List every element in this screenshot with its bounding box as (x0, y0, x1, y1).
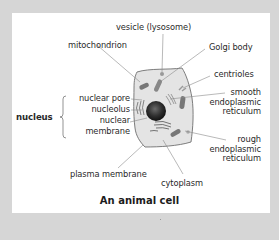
label-centrioles: centrioles (214, 70, 254, 80)
label-nuclear-pore: nuclear pore (79, 94, 130, 104)
nucleus-icon (146, 101, 166, 121)
label-nucleus-parts: nuclear pore nucleolus nuclear membrane (79, 94, 130, 137)
nucleus-brace (60, 96, 66, 138)
label-mitochondrion: mitochondrion (68, 41, 127, 51)
label-nuclear-membrane-2: membrane (79, 127, 130, 137)
label-cytoplasm: cytoplasm (161, 179, 203, 189)
label-golgi-body: Golgi body (209, 43, 253, 53)
label-nuclear-membrane-1: nuclear (79, 116, 130, 126)
diagram-title: An animal cell (0, 195, 279, 206)
label-rough-er: rough endoplasmic reticulum (209, 135, 261, 164)
label-nucleolus: nucleolus (79, 105, 130, 115)
label-vesicle: vesicle (lysosome) (116, 23, 191, 33)
label-nucleus: nucleus (16, 113, 53, 123)
label-smooth-er: smooth endoplasmic reticulum (209, 88, 261, 117)
speck (160, 219, 161, 220)
label-plasma-membrane: plasma membrane (70, 170, 147, 180)
